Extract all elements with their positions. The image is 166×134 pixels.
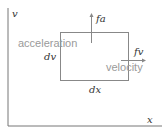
x-axis-label: x <box>147 114 153 125</box>
velocity-label: velocity <box>106 61 143 73</box>
dx-label: dx <box>89 84 101 95</box>
dv-label: dv <box>44 51 56 62</box>
fa-label: fa <box>95 13 106 24</box>
fv-label: fv <box>133 46 144 57</box>
y-axis-label: v <box>12 8 18 19</box>
acceleration-arrowhead-icon <box>90 13 94 17</box>
acceleration-label: acceleration <box>18 37 77 49</box>
phase-space-diagram: v x acceleration dv dx fa fv velocity <box>0 0 166 134</box>
